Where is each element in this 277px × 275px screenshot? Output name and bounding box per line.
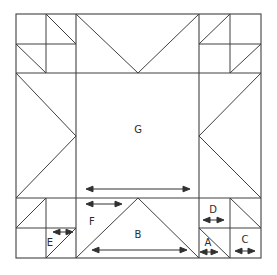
star-point-triangles <box>16 14 261 258</box>
arrow-d-width <box>203 217 224 223</box>
label-e: E <box>47 237 53 248</box>
diagram-canvas: G B F D A C E <box>0 0 277 275</box>
piece-labels: G B F D A C E <box>47 124 249 248</box>
label-g: G <box>134 124 142 135</box>
main-grid-lines <box>16 14 261 258</box>
label-c: C <box>242 234 249 245</box>
label-f: F <box>89 216 95 227</box>
label-a: A <box>205 237 212 248</box>
arrow-a-width <box>200 249 218 255</box>
arrow-c-width <box>235 248 255 254</box>
outer-frame <box>16 14 261 258</box>
label-b: B <box>135 229 142 240</box>
measurement-arrows <box>53 186 255 255</box>
corner-block-top-right <box>199 14 261 73</box>
arrow-f-width <box>86 201 122 207</box>
corner-block-bottom-left <box>16 198 76 258</box>
quilt-block-diagram: G B F D A C E <box>0 0 277 275</box>
corner-block-top-left <box>16 14 76 73</box>
label-d: D <box>209 204 217 215</box>
arrow-b-width <box>92 247 187 253</box>
arrow-g-width <box>86 186 190 192</box>
